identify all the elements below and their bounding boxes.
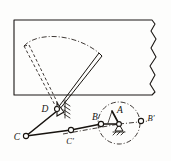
pivot-d-ground-hatching <box>64 100 70 118</box>
sweep-arc-dash-dot <box>24 36 99 53</box>
mechanism-figure: D C C' B A B' Kinematic diagram of a win… <box>0 0 171 161</box>
crank-ground-hatching <box>113 132 125 135</box>
joint-c-prime-pin <box>68 127 73 132</box>
blade-solid-tip-cap <box>99 53 102 56</box>
pivot-d-bearing <box>55 107 60 112</box>
label-joint-c: C <box>14 132 21 142</box>
label-joint-b: B <box>92 112 98 122</box>
wiper-blade-dashed-position <box>24 45 60 109</box>
windshield-panel-outline <box>14 20 156 95</box>
label-pivot-d: D <box>41 104 49 114</box>
pin-joints <box>23 118 143 138</box>
label-joint-b-prime: B' <box>147 113 154 123</box>
blade-solid-edge-inner <box>59 56 102 110</box>
linkage-diagram-canvas: D C C' B A B' <box>0 0 171 161</box>
centerline-a-to-bprime <box>119 121 149 124</box>
label-crank-center-a: A <box>116 105 123 115</box>
blade-solid-edge-outer <box>57 53 99 109</box>
windshield-panel <box>14 20 156 95</box>
crank-center-bearing-a <box>117 122 122 127</box>
joint-c-pin <box>23 133 28 138</box>
crank-web-line <box>108 111 112 123</box>
blade-dashed-edge-outer <box>24 46 57 109</box>
crank-axis-centerline <box>63 121 149 134</box>
wiper-blade-solid-position <box>57 53 102 110</box>
label-joint-c-prime: C' <box>66 136 74 146</box>
wiper-sweep-arc <box>24 36 99 53</box>
blade-dashed-edge-inner <box>29 45 60 108</box>
joint-b-pin <box>98 121 103 126</box>
joint-b-prime-pin <box>138 118 143 123</box>
